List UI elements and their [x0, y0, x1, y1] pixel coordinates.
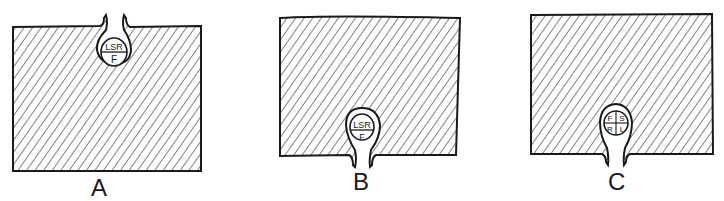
- panel-b-block: [280, 17, 460, 168]
- cell-label-f: F: [359, 132, 365, 142]
- cell-label-f: F: [111, 54, 117, 65]
- cell-label-f: F: [608, 114, 613, 123]
- panel-a: LSR F: [13, 15, 201, 171]
- panel-a-block: [13, 15, 201, 171]
- panel-b: LSR F: [280, 17, 460, 168]
- cell-label-lsr: LSR: [105, 42, 123, 52]
- panel-b-caption: B: [353, 168, 369, 196]
- cell-label-r: R: [607, 125, 613, 134]
- cell-a: LSR F: [101, 38, 127, 66]
- panel-a-caption: A: [91, 174, 107, 201]
- panel-c: F S R L: [531, 14, 713, 165]
- panel-c-caption: C: [608, 168, 625, 196]
- cell-label-lsr: LSR: [353, 120, 371, 130]
- cell-c: F S R L: [604, 111, 628, 135]
- cell-label-l: L: [620, 125, 625, 134]
- cell-b: LSR F: [350, 114, 374, 142]
- panel-c-block: [531, 14, 713, 165]
- cell-label-s: S: [619, 114, 624, 123]
